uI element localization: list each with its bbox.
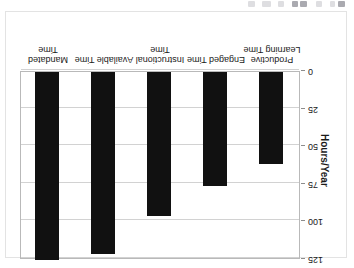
y-tick-mark-0	[301, 70, 305, 71]
toolbar-icon-4[interactable]	[292, 1, 298, 7]
gridline-100	[21, 219, 299, 220]
bar-engaged-time	[203, 72, 227, 186]
y-tick-mark-125	[301, 258, 305, 259]
y-tick-label-0: 0	[308, 67, 328, 76]
y-tick-mark-50	[301, 145, 305, 146]
toolbar-icon-5[interactable]	[300, 1, 307, 7]
bar-productive-learning-time	[259, 72, 283, 164]
category-label-available-time: Available Time	[73, 55, 135, 65]
y-tick-label-125: 125	[308, 255, 328, 264]
plot-area	[20, 71, 300, 259]
y-tick-label-100: 100	[308, 217, 328, 226]
app-toolbar-strip[interactable]	[0, 0, 354, 9]
toolbar-icon-2[interactable]	[262, 1, 271, 7]
toolbar-icon-8[interactable]	[338, 1, 345, 7]
bar-mandated-time	[35, 72, 59, 260]
gridline-125	[21, 257, 299, 258]
y-axis-title: Hours/Year	[319, 134, 330, 187]
y-tick-label-25: 25	[308, 105, 328, 114]
chart-card: 0255075100125Hours/Year Mandated TimeAva…	[5, 11, 347, 258]
category-label-productive-learning-time: Productive Learning Time	[241, 45, 303, 65]
y-tick-mark-100	[301, 220, 305, 221]
y-tick-mark-25	[301, 108, 305, 109]
category-label-mandated-time: Mandated Time	[17, 45, 79, 65]
rotated-chart-content: 0255075100125Hours/Year Mandated TimeAva…	[6, 12, 348, 259]
bar-available-time	[91, 72, 115, 254]
toolbar-icon-6[interactable]	[316, 1, 322, 7]
category-label-engaged-time: Engaged Time	[185, 55, 247, 65]
y-tick-mark-75	[301, 183, 305, 184]
gridline-0	[21, 69, 299, 70]
bar-instructional-time	[147, 72, 171, 216]
category-label-instructional-time: Instructional Time	[129, 45, 191, 65]
toolbar-icon-7[interactable]	[330, 1, 335, 7]
toolbar-icon-1[interactable]	[248, 1, 255, 7]
toolbar-icon-3[interactable]	[278, 1, 284, 7]
